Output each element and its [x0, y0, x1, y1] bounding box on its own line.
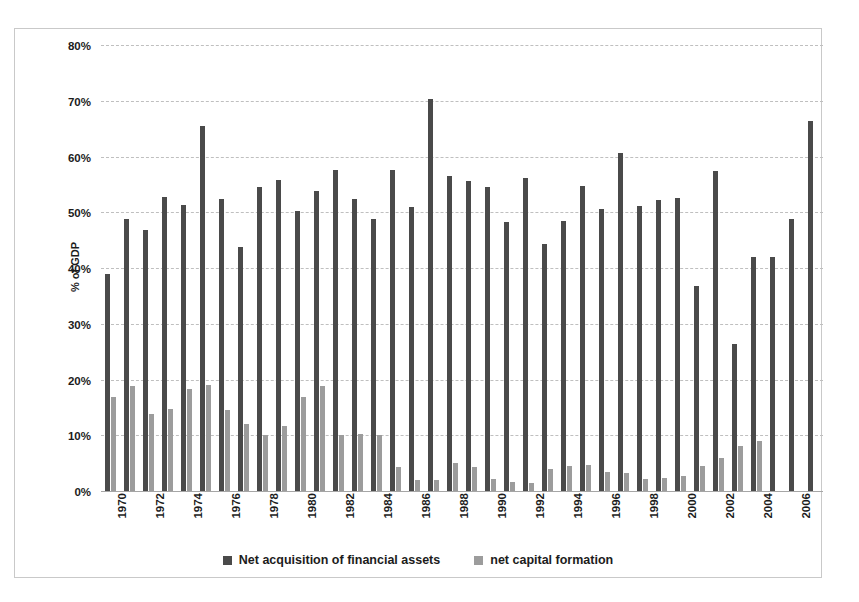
x-tick-label-1996: 1996: [610, 493, 622, 519]
bar-1995-series2: [586, 465, 591, 491]
bar-2002-series2: [719, 458, 724, 491]
x-tick-label-1974: 1974: [192, 493, 204, 519]
bar-2004-series1: [751, 257, 756, 491]
bars-layer: [101, 45, 823, 491]
bar-2003-series1: [732, 344, 737, 491]
bar-2004-series2: [757, 441, 762, 491]
x-tick-label-1984: 1984: [382, 493, 394, 519]
bar-1988-series2: [453, 463, 458, 491]
bar-1973-series1: [162, 197, 167, 491]
chart-plot-wrapper: % of GDP 0%10%20%30%40%50%60%70%80% 1970…: [15, 29, 821, 577]
x-tick-label-1986: 1986: [420, 493, 432, 519]
y-tick-label-50: 50%: [68, 207, 91, 219]
legend-entry-1[interactable]: Net acquisition of financial assets: [223, 553, 440, 567]
x-tick-label-2004: 2004: [762, 493, 774, 519]
bar-1990-series2: [491, 479, 496, 491]
bar-1979-series1: [276, 180, 281, 491]
x-tick-label-2002: 2002: [724, 493, 736, 519]
legend-label-1: Net acquisition of financial assets: [239, 553, 440, 567]
y-tick-label-40: 40%: [68, 263, 91, 275]
bar-1978-series1: [257, 187, 262, 491]
x-tick-label-1990: 1990: [496, 493, 508, 519]
bar-1999-series2: [662, 478, 667, 491]
x-tick-label-1988: 1988: [458, 493, 470, 519]
bar-1987-series1: [428, 99, 433, 491]
x-tick-label-1998: 1998: [648, 493, 660, 519]
y-tick-label-20: 20%: [68, 375, 91, 387]
x-tick-label-1972: 1972: [154, 493, 166, 519]
bar-1980-series2: [301, 397, 306, 491]
bar-2002-series1: [713, 171, 718, 491]
y-tick-label-10: 10%: [68, 430, 91, 442]
bar-1977-series2: [244, 424, 249, 491]
bar-1998-series2: [643, 479, 648, 491]
y-tick-label-60: 60%: [68, 152, 91, 164]
bar-2000-series1: [675, 198, 680, 491]
bar-1994-series2: [567, 466, 572, 491]
bar-1990-series1: [485, 187, 490, 491]
bar-1994-series1: [561, 221, 566, 491]
bar-2001-series1: [694, 286, 699, 491]
chart-frame: % of GDP 0%10%20%30%40%50%60%70%80% 1970…: [14, 28, 822, 578]
y-tick-label-70: 70%: [68, 96, 91, 108]
bar-1989-series2: [472, 467, 477, 491]
bar-2001-series2: [700, 466, 705, 491]
y-tick-label-30: 30%: [68, 319, 91, 331]
x-tick-label-1970: 1970: [116, 493, 128, 519]
bar-1973-series2: [168, 409, 173, 491]
bar-1993-series2: [548, 469, 553, 491]
bar-1978-series2: [263, 435, 268, 491]
bar-1986-series1: [409, 207, 414, 491]
bar-1997-series2: [624, 473, 629, 491]
bar-1974-series2: [187, 389, 192, 491]
y-tick-label-80: 80%: [68, 40, 91, 52]
bar-1992-series1: [523, 178, 528, 491]
bar-1995-series1: [580, 186, 585, 492]
bar-1999-series1: [656, 200, 661, 491]
legend-swatch-dark: [223, 556, 232, 565]
bar-1984-series1: [371, 219, 376, 491]
bar-2005-series1: [770, 257, 775, 491]
bar-1986-series2: [415, 480, 420, 491]
bar-1985-series2: [396, 467, 401, 491]
x-tick-label-1976: 1976: [230, 493, 242, 519]
bar-1981-series1: [314, 191, 319, 491]
plot-area: 0%10%20%30%40%50%60%70%80%: [101, 45, 823, 491]
bar-1992-series2: [529, 483, 534, 491]
bar-1976-series2: [225, 410, 230, 491]
bar-1971-series2: [130, 386, 135, 491]
x-tick-label-1978: 1978: [268, 493, 280, 519]
chart-legend: Net acquisition of financial assetsnet c…: [15, 553, 821, 567]
x-tick-label-1994: 1994: [572, 493, 584, 519]
bar-1989-series1: [466, 181, 471, 491]
bar-1976-series1: [219, 199, 224, 491]
bar-1983-series1: [352, 199, 357, 491]
bar-1997-series1: [618, 153, 623, 491]
bar-1977-series1: [238, 247, 243, 491]
bar-1981-series2: [320, 386, 325, 491]
bar-2007-series1: [808, 121, 813, 491]
bar-1975-series2: [206, 385, 211, 491]
x-tick-label-1982: 1982: [344, 493, 356, 519]
bar-1970-series1: [105, 274, 110, 491]
legend-label-2: net capital formation: [490, 553, 613, 567]
bar-1988-series1: [447, 176, 452, 491]
bar-2003-series2: [738, 446, 743, 491]
bar-2006-series1: [789, 219, 794, 491]
bar-1980-series1: [295, 211, 300, 491]
legend-swatch-gray: [474, 556, 483, 565]
x-axis-tick-labels: 1970197219741976197819801982198419861988…: [101, 493, 823, 549]
bar-1996-series1: [599, 209, 604, 491]
bar-1982-series2: [339, 435, 344, 491]
bar-1970-series2: [111, 397, 116, 491]
bar-2000-series2: [681, 476, 686, 491]
bar-1985-series1: [390, 170, 395, 491]
bar-1996-series2: [605, 472, 610, 491]
bar-1993-series1: [542, 244, 547, 491]
legend-entry-2[interactable]: net capital formation: [474, 553, 613, 567]
bar-1987-series2: [434, 480, 439, 491]
bar-1975-series1: [200, 126, 205, 491]
x-tick-label-1992: 1992: [534, 493, 546, 519]
x-tick-label-2000: 2000: [686, 493, 698, 519]
bar-1972-series2: [149, 414, 154, 491]
